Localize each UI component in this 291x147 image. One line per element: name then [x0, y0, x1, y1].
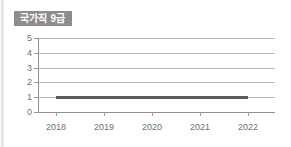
y-axis-line — [38, 38, 39, 113]
gridline-4 — [38, 53, 275, 54]
y-tick-label-5: 5 — [12, 34, 32, 43]
x-tick-2019 — [104, 112, 105, 116]
gridline-2 — [38, 82, 275, 83]
x-tick-label-2021: 2021 — [180, 122, 220, 132]
y-tick-0 — [34, 112, 39, 113]
x-tick-label-2022: 2022 — [228, 122, 268, 132]
y-tick-1 — [34, 97, 39, 98]
line-chart: 5 4 3 2 1 0 2018 2019 2020 2021 2022 — [0, 0, 291, 147]
x-tick-2018 — [56, 112, 57, 116]
y-tick-label-4: 4 — [12, 49, 32, 58]
x-tick-label-2018: 2018 — [36, 122, 76, 132]
y-tick-3 — [34, 68, 39, 69]
y-tick-4 — [34, 53, 39, 54]
x-tick-2021 — [200, 112, 201, 116]
x-tick-label-2020: 2020 — [132, 122, 172, 132]
y-tick-2 — [34, 82, 39, 83]
y-tick-label-2: 2 — [12, 78, 32, 87]
y-tick-label-1: 1 — [12, 93, 32, 102]
x-tick-label-2019: 2019 — [84, 122, 124, 132]
y-tick-5 — [34, 38, 39, 39]
x-tick-2020 — [152, 112, 153, 116]
gridline-5 — [38, 38, 275, 39]
y-tick-label-3: 3 — [12, 64, 32, 73]
gridline-3 — [38, 68, 275, 69]
series-line-gukgajik-9geup — [56, 96, 248, 99]
x-axis-line — [38, 112, 275, 113]
x-tick-2022 — [248, 112, 249, 116]
y-tick-label-0: 0 — [12, 108, 32, 117]
chart-screenshot: 국가직 9급 5 4 3 2 1 0 2018 2019 2020 2 — [0, 0, 291, 147]
